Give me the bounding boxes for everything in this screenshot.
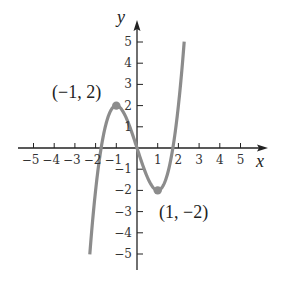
y-tick-label: −2 [114, 183, 132, 197]
axes [18, 20, 268, 270]
point-marker [112, 101, 120, 109]
point-label-max: (−1, 2) [52, 82, 101, 103]
point-marker [154, 186, 162, 194]
y-tick-label: 1 [124, 120, 132, 134]
y-tick-label: 4 [124, 56, 132, 70]
y-tick-label: 3 [124, 77, 132, 91]
x-axis-label: x [255, 151, 264, 171]
point-label-min: (1, −2) [159, 202, 208, 223]
y-tick-label: −4 [114, 226, 132, 240]
y-tick-label: 5 [124, 35, 132, 49]
y-tick-label: −5 [114, 247, 132, 261]
x-tick-label: 4 [216, 153, 224, 167]
y-tick-label: −1 [114, 162, 132, 176]
x-tick-label: −3 [63, 153, 81, 167]
x-tick-label: 2 [175, 153, 183, 167]
x-tick-label: 1 [154, 153, 162, 167]
y-tick-label: −3 [114, 205, 132, 219]
x-tick-label: −4 [42, 153, 60, 167]
cubic-function-graph: −5−4−3−2−11234554321−1−2−3−4−5xy (−1, 2)… [0, 0, 289, 285]
x-tick-label: 5 [237, 153, 245, 167]
y-axis-label: y [115, 7, 125, 27]
y-tick-label: 2 [124, 99, 132, 113]
x-tick-label: −2 [84, 153, 102, 167]
tick-labels: −5−4−3−2−11234554321−1−2−3−4−5xy [22, 7, 264, 261]
x-tick-label: −5 [22, 153, 40, 167]
x-tick-label: 3 [195, 153, 203, 167]
